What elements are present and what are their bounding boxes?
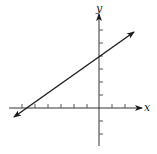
x-ticks: [22, 104, 125, 108]
coordinate-plane: [0, 0, 157, 154]
data-line: [62, 32, 134, 83]
y-ticks: [99, 30, 103, 134]
y-axis-label: y: [96, 3, 102, 14]
data-line-lower: [14, 83, 62, 117]
x-axis-label: x: [144, 102, 150, 113]
